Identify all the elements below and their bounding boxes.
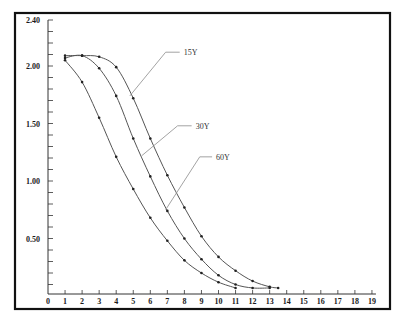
data-point-marker <box>234 283 237 286</box>
leader-line <box>142 126 192 156</box>
line-chart: 0.501.001.502.002.4001234567891011121314… <box>0 0 395 320</box>
data-point-marker <box>149 217 152 220</box>
data-point-marker <box>115 156 118 159</box>
y-tick-label: 2.00 <box>26 62 40 71</box>
y-tick-label: 2.40 <box>26 16 40 25</box>
series-label-30y: 30Y <box>196 122 210 131</box>
series-line <box>65 56 278 288</box>
data-point-marker <box>98 56 101 59</box>
data-point-marker <box>200 235 203 238</box>
x-tick-label: 5 <box>131 297 135 306</box>
axes: 0.501.001.502.002.4001234567891011121314… <box>26 16 376 306</box>
series-line <box>65 60 236 288</box>
data-point-marker <box>98 116 101 119</box>
series-labels: 15Y30Y60Y <box>130 48 230 210</box>
data-point-marker <box>149 175 152 178</box>
leader-line <box>130 52 180 96</box>
x-tick-label: 0 <box>46 297 50 306</box>
data-point-marker <box>64 54 67 57</box>
data-point-marker <box>183 206 186 209</box>
x-tick-label: 16 <box>317 297 325 306</box>
x-tick-label: 1 <box>63 297 67 306</box>
x-tick-label: 14 <box>283 297 291 306</box>
series-label-60y: 60Y <box>216 153 230 162</box>
data-point-marker <box>268 287 271 290</box>
series-curves <box>64 54 280 289</box>
x-tick-label: 15 <box>300 297 308 306</box>
x-tick-label: 4 <box>114 297 118 306</box>
data-point-marker <box>217 281 220 284</box>
data-point-marker <box>115 95 118 98</box>
x-tick-label: 18 <box>351 297 359 306</box>
data-point-marker <box>251 280 254 283</box>
data-point-marker <box>166 210 169 213</box>
x-tick-label: 13 <box>266 297 274 306</box>
data-point-marker <box>132 137 135 140</box>
data-point-marker <box>200 258 203 261</box>
data-point-marker <box>149 137 152 140</box>
data-point-marker <box>183 237 186 240</box>
leader-line <box>166 157 212 210</box>
x-tick-label: 2 <box>80 297 84 306</box>
x-tick-label: 7 <box>165 297 169 306</box>
data-point-marker <box>217 256 220 259</box>
data-point-marker <box>132 188 135 191</box>
data-point-marker <box>217 274 220 277</box>
y-tick-label: 0.50 <box>26 235 40 244</box>
x-tick-label: 9 <box>199 297 203 306</box>
x-tick-label: 10 <box>215 297 223 306</box>
data-point-marker <box>183 259 186 262</box>
x-tick-label: 11 <box>232 297 240 306</box>
data-point-marker <box>234 287 237 290</box>
data-point-marker <box>166 240 169 243</box>
data-point-marker <box>277 287 280 290</box>
x-tick-label: 12 <box>249 297 257 306</box>
data-point-marker <box>64 59 67 62</box>
x-tick-label: 19 <box>368 297 376 306</box>
data-point-marker <box>200 272 203 275</box>
data-point-marker <box>81 81 84 84</box>
data-point-marker <box>64 57 67 60</box>
series-label-15y: 15Y <box>184 48 198 57</box>
series-60y <box>64 59 237 289</box>
x-tick-label: 6 <box>148 297 152 306</box>
data-point-marker <box>132 97 135 100</box>
chart: 0.501.001.502.002.4001234567891011121314… <box>0 0 395 320</box>
data-point-marker <box>166 174 169 177</box>
series-15y <box>64 54 280 289</box>
y-tick-label: 1.00 <box>26 177 40 186</box>
series-line <box>65 55 270 288</box>
data-point-marker <box>115 66 118 69</box>
data-point-marker <box>98 67 101 70</box>
data-point-marker <box>81 54 84 57</box>
series-30y <box>64 54 271 289</box>
data-point-marker <box>234 269 237 272</box>
x-tick-label: 3 <box>97 297 101 306</box>
x-tick-label: 17 <box>334 297 342 306</box>
chart-frame <box>15 13 390 309</box>
x-tick-label: 8 <box>182 297 186 306</box>
y-tick-label: 1.50 <box>26 120 40 129</box>
data-point-marker <box>251 287 254 290</box>
